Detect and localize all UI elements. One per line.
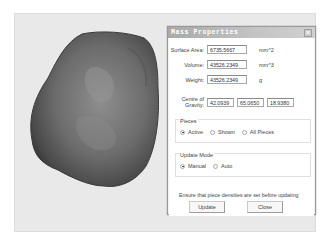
radio-all-pieces[interactable]: All Pieces (242, 129, 274, 135)
radio-dot-checked (180, 130, 185, 135)
radio-dot (213, 164, 218, 169)
densities-note: Ensure that piece densities are set befo… (179, 192, 299, 198)
radio-dot (210, 130, 215, 135)
radio-shown[interactable]: Shown (210, 129, 235, 135)
radio-auto[interactable]: Auto (213, 163, 232, 169)
cog-z-field[interactable]: 18.9380 (267, 98, 294, 107)
close-icon[interactable]: × (304, 29, 312, 37)
close-button[interactable]: Close (247, 201, 283, 213)
radio-dot-checked (180, 164, 185, 169)
dialog-title: Mass Properties (171, 29, 239, 36)
radio-auto-label: Auto (221, 163, 232, 169)
cog-x-field[interactable]: 42.0939 (207, 98, 234, 107)
radio-active-label: Active (188, 129, 203, 135)
dialog-titlebar[interactable]: Mass Properties × (168, 27, 315, 38)
weight-field[interactable]: 43526.2349 (207, 75, 247, 84)
surface-area-row: Surface Area: 6735.5667 mm^2 (169, 45, 274, 54)
rock-3d-model[interactable] (20, 28, 160, 200)
radio-manual[interactable]: Manual (180, 163, 206, 169)
volume-unit: mm^3 (259, 62, 274, 68)
surface-area-label: Surface Area: (169, 47, 204, 53)
radio-manual-label: Manual (188, 163, 206, 169)
radio-shown-label: Shown (218, 129, 235, 135)
weight-label: Weight: (169, 77, 204, 83)
centre-of-gravity-label: Centre of Gravity: (169, 96, 204, 108)
volume-field[interactable]: 43526.2349 (207, 60, 247, 69)
update-mode-group: Update Mode Manual Auto (175, 153, 311, 177)
surface-area-field[interactable]: 6735.5667 (207, 45, 247, 54)
update-button[interactable]: Update (189, 201, 225, 213)
volume-row: Volume: 43526.2349 mm^3 (169, 60, 274, 69)
radio-dot (242, 130, 247, 135)
mass-properties-dialog: Mass Properties × Surface Area: 6735.566… (167, 26, 316, 215)
update-mode-group-title: Update Mode (179, 152, 214, 158)
dialog-body: Surface Area: 6735.5667 mm^2 Volume: 435… (169, 38, 314, 216)
pieces-group: Pieces Active Shown All Pieces (175, 119, 311, 143)
cog-y-field[interactable]: 65.0650 (237, 98, 264, 107)
radio-active[interactable]: Active (180, 129, 203, 135)
pieces-group-title: Pieces (179, 118, 198, 124)
volume-label: Volume: (169, 62, 204, 68)
radio-all-pieces-label: All Pieces (250, 129, 274, 135)
centre-of-gravity-row: Centre of Gravity: 42.0939 65.0650 18.93… (169, 96, 294, 108)
surface-area-unit: mm^2 (259, 47, 274, 53)
weight-row: Weight: 43526.2349 g (169, 75, 262, 84)
weight-unit: g (259, 77, 262, 83)
